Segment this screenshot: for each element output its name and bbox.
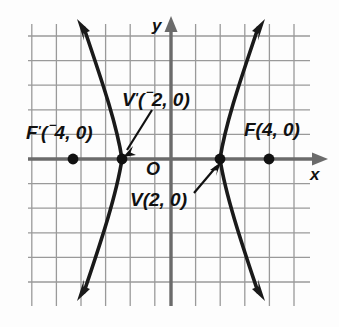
label-vertex-right: V(2, 0) — [130, 190, 187, 209]
label-x-axis: x — [310, 166, 319, 183]
label-focus-left-coords: 4, 0) — [55, 122, 93, 143]
y-axis — [165, 16, 178, 306]
label-y-axis: y — [152, 17, 161, 34]
y-axis-arrow — [165, 16, 178, 32]
label-focus-right: F(4, 0) — [244, 120, 300, 139]
leader-vertex-right — [194, 167, 216, 193]
graph-canvas — [0, 0, 339, 327]
label-origin: O — [146, 160, 160, 178]
x-axis-arrow — [312, 153, 328, 166]
hyperbola-figure: F'(⁻4, 0) F(4, 0) V'(⁻2, 0) V(2, 0) O x … — [0, 0, 339, 327]
point-focus-left[interactable] — [68, 154, 79, 165]
point-focus-right[interactable] — [264, 154, 275, 165]
label-vertex-left-letter: V — [122, 89, 135, 110]
label-vertex-left-coords: 2, 0) — [152, 89, 190, 110]
grid-lines — [28, 24, 310, 306]
label-focus-left-letter: F — [26, 122, 38, 143]
label-focus-left: F'(⁻4, 0) — [26, 120, 93, 142]
label-vertex-left: V'(⁻2, 0) — [122, 87, 190, 109]
